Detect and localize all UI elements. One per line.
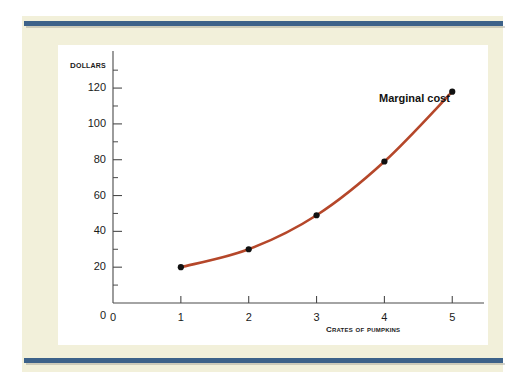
- x-tick-label: 2: [240, 311, 258, 323]
- series-line-marginal-cost: [181, 92, 452, 268]
- series-label-marginal-cost: Marginal cost: [379, 92, 450, 104]
- x-tick-label: 1: [172, 311, 190, 323]
- plot-card: Dollars Crates of pumpkins Marginal cost…: [58, 45, 488, 345]
- top-rule: [24, 21, 503, 26]
- marginal-cost-chart: Dollars Crates of pumpkins Marginal cost…: [58, 45, 488, 345]
- x-tick-label: 0: [104, 311, 122, 323]
- x-tick-label: 3: [308, 311, 326, 323]
- x-tick-label: 4: [375, 311, 393, 323]
- y-axis-title: Dollars: [70, 58, 106, 70]
- y-tick-label: 0: [76, 309, 106, 321]
- y-tick-label: 100: [76, 117, 106, 129]
- figure-page: Dollars Crates of pumpkins Marginal cost…: [0, 0, 525, 389]
- bottom-rule-shadow: [26, 363, 505, 365]
- bottom-rule: [24, 358, 503, 363]
- series-data-point: [313, 212, 319, 218]
- y-tick-label: 20: [76, 260, 106, 272]
- y-tick-label: 120: [76, 81, 106, 93]
- y-tick-label: 60: [76, 189, 106, 201]
- chart-axes: [113, 51, 484, 303]
- x-tick-label: 5: [443, 311, 461, 323]
- x-axis-title: Crates of pumpkins: [326, 322, 400, 334]
- top-rule-shadow: [26, 26, 505, 28]
- series-data-point: [246, 246, 252, 252]
- series-data-point: [178, 264, 184, 270]
- series-data-point: [449, 89, 455, 95]
- y-tick-label: 40: [76, 224, 106, 236]
- chart-series: [178, 89, 456, 271]
- chart-canvas: [58, 45, 488, 345]
- series-data-point: [381, 158, 387, 164]
- y-tick-label: 80: [76, 153, 106, 165]
